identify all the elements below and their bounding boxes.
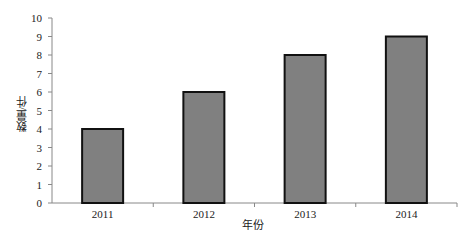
- bar-2013: [285, 55, 326, 203]
- bar-2014: [386, 37, 427, 204]
- y-tick-label: 3: [22, 142, 42, 154]
- bar-chart: 012345678910 2011201220132014 数量/件 年份: [0, 0, 469, 243]
- x-tick-label: 2011: [78, 208, 128, 220]
- y-tick-label: 10: [22, 12, 42, 24]
- y-tick-label: 8: [22, 49, 42, 61]
- bar-2011: [82, 129, 123, 203]
- x-tick-label: 2013: [280, 208, 330, 220]
- x-tick-label: 2014: [381, 208, 431, 220]
- y-tick-label: 1: [22, 179, 42, 191]
- y-tick-label: 0: [22, 197, 42, 209]
- x-tick-label: 2012: [179, 208, 229, 220]
- bar-2012: [183, 92, 224, 203]
- y-axis-title: 数量/件: [14, 96, 30, 132]
- plot-area: [0, 0, 469, 243]
- y-tick-label: 7: [22, 68, 42, 80]
- x-axis-title: 年份: [242, 216, 264, 232]
- y-tick-label: 9: [22, 31, 42, 43]
- y-tick-label: 2: [22, 160, 42, 172]
